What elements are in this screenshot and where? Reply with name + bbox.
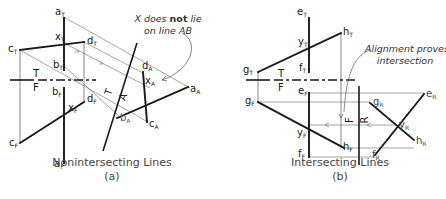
label-d-aux: dA (142, 61, 152, 72)
label-x-front: xF (68, 103, 77, 114)
label-d-top: dT (87, 36, 97, 47)
caption-a-title: Nonintersecting Lines (52, 156, 172, 169)
annotation-x-not-on-ab: X does not lie on line AB (128, 13, 208, 37)
label-c-front: cF (9, 138, 18, 149)
fold-label-f: F (33, 83, 39, 93)
fold-label-r: R (360, 117, 370, 124)
fold-label-t: T (33, 69, 39, 79)
label-g-top: gT (243, 65, 253, 76)
fold-label-f-b: F (278, 83, 284, 93)
caption-b-sublabel: (b) (332, 170, 348, 183)
label-e-top: eT (297, 7, 307, 18)
label-x-aux: xA (145, 76, 155, 87)
label-e-right: eR (426, 89, 436, 100)
fold-label-t-b: T (278, 69, 284, 79)
label-g-front: gF (245, 96, 255, 107)
label-c-aux: cA (149, 119, 159, 130)
label-e-front: eF (298, 86, 308, 97)
label-h-front: hF (343, 142, 353, 153)
label-d-front: dF (87, 94, 97, 105)
caption-a: Nonintersecting Lines (a) (42, 156, 182, 184)
caption-b-title: Intersecting Lines (291, 156, 389, 169)
label-a-aux: aA (190, 84, 200, 95)
label-c-top: cT (8, 44, 17, 55)
figure: aT xT dT cT bT T F bF dF xF cF aF T A dA… (0, 0, 446, 199)
label-y-top: yT (298, 37, 308, 48)
caption-b: Intersecting Lines (b) (280, 156, 400, 184)
label-y-right: yR (399, 120, 409, 131)
label-f-top: fT (299, 63, 306, 74)
label-h-right: hR (416, 136, 427, 147)
caption-a-sublabel: (a) (104, 170, 119, 183)
annotation-alignment-proves: Alignment proves intersection (365, 43, 445, 67)
label-b-top: bT (53, 60, 63, 71)
label-x-top: xT (55, 32, 65, 43)
label-b-front: bF (52, 87, 62, 98)
label-g-right: gR (373, 97, 384, 108)
label-b-aux: bA (120, 113, 130, 124)
label-y-front: yF (297, 128, 306, 139)
fold-label-f-r: F (345, 117, 355, 123)
label-a-top: aT (55, 7, 65, 18)
label-h-top: hT (343, 27, 353, 38)
